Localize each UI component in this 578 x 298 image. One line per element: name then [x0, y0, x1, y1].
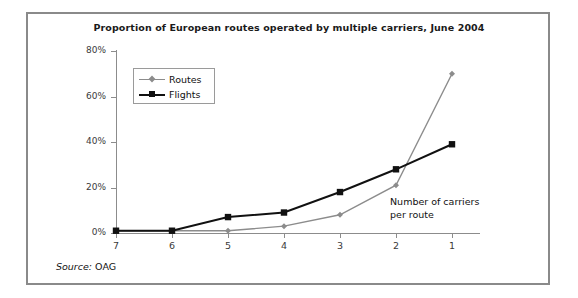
- x-tick-label: 1: [437, 241, 467, 251]
- y-axis-line: [116, 50, 117, 234]
- x-tick-label: 2: [381, 241, 411, 251]
- y-tick-label: 20%: [66, 183, 106, 192]
- legend-entry-routes: Routes: [139, 72, 202, 86]
- x-tick-label: 6: [157, 241, 187, 251]
- x-tick-label: 5: [213, 241, 243, 251]
- y-tick-mark: [111, 51, 116, 52]
- y-tick-label: 80%: [66, 46, 106, 55]
- x-tick-mark: [452, 233, 453, 238]
- x-tick-mark: [228, 233, 229, 238]
- x-tick-label: 3: [325, 241, 355, 251]
- y-tick-mark: [111, 142, 116, 143]
- y-tick-label: 40%: [66, 137, 106, 146]
- y-tick-mark: [111, 188, 116, 189]
- x-tick-label: 4: [269, 241, 299, 251]
- legend-entry-flights: Flights: [139, 87, 200, 101]
- annotation-line-2: per route: [390, 209, 510, 222]
- x-tick-mark: [284, 233, 285, 238]
- source-note: Source: OAG: [56, 261, 116, 272]
- x-axis-line: [116, 233, 480, 234]
- chart-legend: Routes Flights: [133, 68, 215, 104]
- legend-label-flights: Flights: [169, 89, 200, 100]
- y-tick-mark: [111, 97, 116, 98]
- y-tick-label: 60%: [66, 92, 106, 101]
- annotation-line-1: Number of carriers: [390, 196, 510, 209]
- x-tick-label: 7: [101, 241, 131, 251]
- routes-line-swatch-icon: [139, 74, 165, 84]
- x-tick-mark: [172, 233, 173, 238]
- y-tick-label: 0%: [66, 228, 106, 237]
- source-value: OAG: [95, 261, 116, 272]
- x-tick-mark: [340, 233, 341, 238]
- source-label: Source:: [56, 261, 92, 272]
- x-tick-mark: [116, 233, 117, 238]
- chart-title: Proportion of European routes operated b…: [0, 22, 578, 33]
- axis-annotation: Number of carriers per route: [390, 196, 510, 222]
- x-tick-mark: [396, 233, 397, 238]
- flights-line-swatch-icon: [139, 89, 165, 99]
- legend-label-routes: Routes: [169, 74, 202, 85]
